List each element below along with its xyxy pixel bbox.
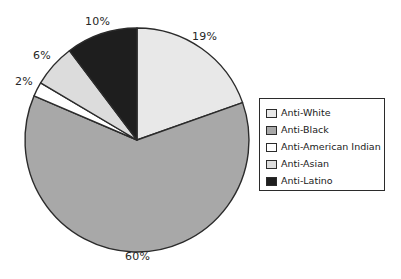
slice-label-anti-white: 19% [192,30,217,43]
slice-label-anti-latino: 10% [85,15,110,28]
legend-swatch-anti-latino [266,177,277,186]
legend-item-anti-latino[interactable]: Anti-Latino [266,173,379,189]
legend-item-anti-american-indian[interactable]: Anti-American Indian [266,139,379,155]
pie-chart-figure: 19% 10% 6% 2% 60% Anti-White Anti-Black … [0,0,401,279]
legend-swatch-anti-black [266,126,277,135]
legend-label-anti-white: Anti-White [281,108,331,118]
legend-item-anti-asian[interactable]: Anti-Asian [266,156,379,172]
legend-item-anti-white[interactable]: Anti-White [266,105,379,121]
pie-slice-group [25,28,249,252]
chart-legend: Anti-White Anti-Black Anti-American Indi… [259,98,385,191]
slice-label-anti-american-indian: 2% [15,75,33,88]
legend-label-anti-latino: Anti-Latino [281,176,333,186]
slice-label-anti-asian: 6% [33,49,51,62]
legend-label-anti-asian: Anti-Asian [281,159,329,169]
legend-item-anti-black[interactable]: Anti-Black [266,122,379,138]
legend-swatch-anti-american-indian [266,143,277,152]
slice-label-anti-black: 60% [125,250,150,263]
legend-label-anti-black: Anti-Black [281,125,329,135]
legend-label-anti-american-indian: Anti-American Indian [281,142,381,152]
legend-swatch-anti-white [266,109,277,118]
legend-swatch-anti-asian [266,160,277,169]
